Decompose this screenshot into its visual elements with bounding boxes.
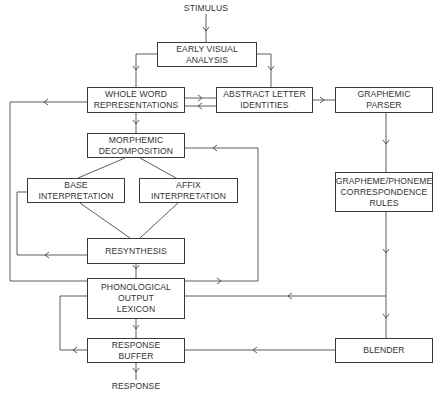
box-blender: BLENDER (335, 338, 433, 363)
box-text: REPRESENTATIONS (94, 100, 179, 111)
box-text: OUTPUT (118, 293, 154, 304)
box-text: ANALYSIS (186, 55, 228, 66)
stimulus-label: STIMULUS (166, 3, 246, 13)
box-grapheme-phoneme-rules: GRAPHEME/PHONEME CORRESPONDENCE RULES (335, 172, 433, 212)
box-text: RESYNTHESIS (105, 246, 167, 257)
box-text: ABSTRACT LETTER (223, 89, 306, 100)
box-abstract-letter-identities: ABSTRACT LETTER IDENTITIES (216, 87, 313, 113)
box-text: GRAPHEME/PHONEME (336, 176, 433, 187)
box-text: CORRESPONDENCE (341, 187, 428, 198)
response-label: RESPONSE (96, 381, 176, 391)
box-graphemic-parser: GRAPHEMIC PARSER (335, 87, 433, 113)
box-text: MORPHEMIC (109, 135, 163, 146)
box-base-interpretation: BASE INTERPRETATION (27, 178, 125, 203)
box-phonological-output-lexicon: PHONOLOGICAL OUTPUT LEXICON (87, 278, 185, 319)
box-text: BUFFER (119, 351, 154, 362)
box-affix-interpretation: AFFIX INTERPRETATION (139, 178, 238, 203)
box-text: DECOMPOSITION (99, 146, 173, 157)
box-response-buffer: RESPONSE BUFFER (87, 338, 185, 363)
box-morphemic-decomposition: MORPHEMIC DECOMPOSITION (87, 133, 185, 158)
box-text: BLENDER (363, 345, 404, 356)
box-text: INTERPRETATION (151, 191, 226, 202)
box-text: RESPONSE (112, 340, 161, 351)
box-text: BASE (64, 180, 87, 191)
diagram-canvas: STIMULUS EARLY VISUAL ANALYSIS WHOLE WOR… (0, 0, 445, 395)
box-early-visual-analysis: EARLY VISUAL ANALYSIS (157, 42, 257, 67)
box-text: LEXICON (117, 304, 155, 315)
box-text: WHOLE WORD (105, 89, 167, 100)
box-text: RULES (369, 198, 398, 209)
box-text: GRAPHEMIC (358, 89, 411, 100)
box-text: PARSER (366, 100, 401, 111)
box-text: INTERPRETATION (38, 191, 113, 202)
box-text: IDENTITIES (240, 100, 288, 111)
box-whole-word-representations: WHOLE WORD REPRESENTATIONS (87, 87, 185, 113)
box-text: EARLY VISUAL (176, 44, 238, 55)
box-text: AFFIX (176, 180, 201, 191)
box-resynthesis: RESYNTHESIS (87, 238, 185, 264)
box-text: PHONOLOGICAL (101, 282, 171, 293)
